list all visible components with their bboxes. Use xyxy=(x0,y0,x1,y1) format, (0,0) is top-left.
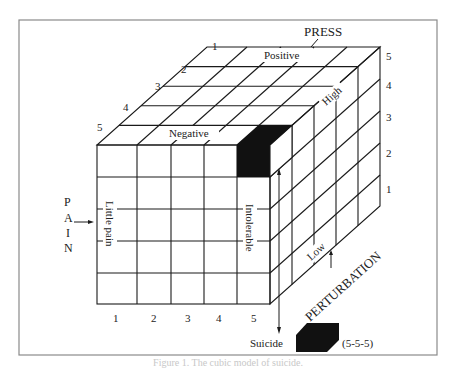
high-label-group: High xyxy=(318,81,348,109)
intolerable-group: Intolerable xyxy=(244,204,256,252)
depth-tick: 2 xyxy=(181,63,187,75)
figure-frame xyxy=(19,20,437,355)
bottom-ticks: 1 2 3 4 5 xyxy=(113,312,257,324)
bottom-tick: 1 xyxy=(113,312,119,324)
press-axis-label: PRESS xyxy=(304,24,342,39)
pain-letter: I xyxy=(66,226,70,240)
right-tick: 3 xyxy=(386,111,392,123)
bottom-tick: 3 xyxy=(185,312,191,324)
right-tick: 1 xyxy=(386,183,392,195)
right-tick: 5 xyxy=(386,50,392,62)
legend-cube-icon xyxy=(296,323,339,352)
low-label-group: Low xyxy=(303,239,330,265)
depth-tick: 1 xyxy=(212,40,218,52)
arrowhead-icon xyxy=(277,327,281,334)
pain-letter: P xyxy=(64,195,71,209)
negative-label: Negative xyxy=(169,127,209,139)
positive-label: Positive xyxy=(264,49,300,61)
suicide-label: Suicide xyxy=(250,337,283,349)
figure-caption: Figure 1. The cubic model of suicide. xyxy=(0,357,456,368)
bottom-tick: 4 xyxy=(216,312,222,324)
highlight-cell-5-5-5 xyxy=(237,125,292,177)
cell-coordinate-label: (5-5-5) xyxy=(342,337,373,350)
pain-axis-label: P A I N xyxy=(64,195,73,255)
little-pain-label: Little pain xyxy=(104,201,116,247)
bottom-tick: 2 xyxy=(151,312,157,324)
arrowhead-icon xyxy=(88,220,94,224)
little-pain-group: Little pain xyxy=(104,201,116,247)
depth-tick: 5 xyxy=(97,121,103,133)
pain-letter: A xyxy=(64,211,73,225)
right-tick: 2 xyxy=(386,147,392,159)
depth-tick: 3 xyxy=(155,80,161,92)
pain-letter: N xyxy=(64,241,73,255)
bottom-tick: 5 xyxy=(251,312,257,324)
depth-tick: 4 xyxy=(123,101,129,113)
right-tick: 4 xyxy=(386,79,392,91)
press-pointer xyxy=(311,39,318,47)
intolerable-label: Intolerable xyxy=(244,204,256,252)
cube-diagram: 1 2 3 4 5 5 4 3 2 1 1 2 3 4 5 PRESS Posi… xyxy=(0,0,456,374)
right-ticks: 5 4 3 2 1 xyxy=(386,50,392,195)
